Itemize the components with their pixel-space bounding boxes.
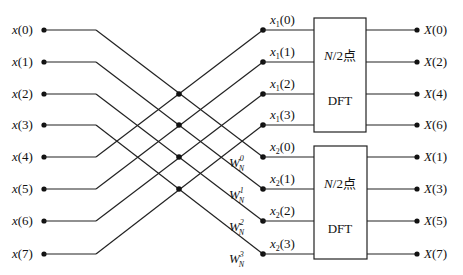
svg-text:x2(1): x2(1) bbox=[269, 171, 295, 188]
svg-text:X(7): X(7) bbox=[423, 246, 447, 261]
twiddle-subscript: N bbox=[238, 228, 245, 237]
output-node-X1: X(1) bbox=[367, 149, 447, 164]
svg-text:x(6): x(6) bbox=[11, 213, 33, 228]
output-dot bbox=[414, 122, 419, 127]
svg-text:x2(3): x2(3) bbox=[269, 236, 295, 253]
input-index: (6) bbox=[18, 213, 33, 228]
butterfly-node bbox=[176, 91, 182, 97]
svg-text:x1(1): x1(1) bbox=[269, 44, 295, 61]
input-node-6: x(6) bbox=[11, 213, 96, 228]
svg-text:X(5): X(5) bbox=[423, 213, 447, 228]
twiddle-w0: W0N bbox=[229, 154, 245, 173]
intermediate-index: (1) bbox=[280, 44, 295, 59]
butterfly-node bbox=[176, 122, 182, 128]
intermediate-node-x1-1: x1(1) bbox=[260, 44, 314, 65]
svg-text:x(4): x(4) bbox=[11, 149, 33, 164]
input-index: (2) bbox=[18, 86, 33, 101]
intermediate-index: (2) bbox=[280, 203, 295, 218]
dft-size-rest: /2点 bbox=[333, 176, 356, 191]
output-node-X2: X(2) bbox=[366, 54, 447, 69]
twiddle-superscript: 0 bbox=[240, 154, 244, 163]
input-node-2: x(2) bbox=[11, 86, 96, 101]
output-index: (2) bbox=[432, 54, 447, 69]
input-index: (7) bbox=[18, 246, 33, 261]
twiddle-w1: W1N bbox=[229, 186, 245, 205]
dft-size-label: N/2点 bbox=[323, 48, 356, 63]
butterfly-node bbox=[176, 186, 182, 192]
twiddle-subscript: N bbox=[238, 260, 245, 269]
twiddle-subscript: N bbox=[238, 164, 245, 173]
output-node-X0: X(0) bbox=[366, 22, 447, 37]
twiddle-superscript: 2 bbox=[240, 218, 244, 227]
svg-text:x(2): x(2) bbox=[11, 86, 33, 101]
twiddle-superscript: 1 bbox=[240, 186, 244, 195]
dft-box bbox=[314, 146, 367, 259]
svg-text:X(6): X(6) bbox=[423, 117, 447, 132]
butterfly-0 bbox=[96, 30, 263, 157]
dft-size-label: N/2点 bbox=[323, 176, 356, 191]
output-dot bbox=[414, 251, 419, 256]
svg-text:x2(0): x2(0) bbox=[269, 139, 295, 156]
intermediate-node-x1-3: x1(3) bbox=[260, 107, 314, 128]
input-index: (0) bbox=[18, 22, 33, 37]
svg-text:X(1): X(1) bbox=[423, 149, 447, 164]
svg-text:x(0): x(0) bbox=[11, 22, 33, 37]
output-index: (1) bbox=[432, 149, 447, 164]
svg-text:x(5): x(5) bbox=[11, 181, 33, 196]
output-dot bbox=[414, 59, 419, 64]
intermediate-index: (0) bbox=[280, 12, 295, 27]
input-index: (4) bbox=[18, 149, 33, 164]
output-node-X5: X(5) bbox=[367, 213, 447, 228]
intermediate-node-x2-1: x2(1) bbox=[260, 171, 314, 192]
intermediate-node-x2-2: x2(2) bbox=[260, 203, 314, 224]
output-node-X6: X(6) bbox=[366, 117, 447, 132]
output-index: (6) bbox=[432, 117, 447, 132]
output-index: (3) bbox=[432, 181, 447, 196]
dft-block-bottom: N/2点 DFT bbox=[314, 146, 367, 259]
svg-text:X(0): X(0) bbox=[423, 22, 447, 37]
svg-text:x1(0): x1(0) bbox=[269, 12, 295, 29]
output-dot bbox=[414, 218, 419, 223]
input-node-4: x(4) bbox=[11, 149, 96, 164]
intermediate-node-x2-0: x2(0) bbox=[260, 139, 314, 160]
intermediate-node-x1-2: x1(2) bbox=[260, 76, 314, 97]
input-node-7: x(7) bbox=[11, 246, 96, 261]
input-node-1: x(1) bbox=[11, 54, 96, 69]
dft-block-top: N/2点 DFT bbox=[314, 18, 366, 132]
dft-size-rest: /2点 bbox=[333, 48, 356, 63]
twiddle-w3: W3N bbox=[229, 250, 245, 269]
svg-text:x1(2): x1(2) bbox=[269, 76, 295, 93]
intermediate-index: (3) bbox=[280, 236, 295, 251]
output-index: (0) bbox=[432, 22, 447, 37]
svg-text:x2(2): x2(2) bbox=[269, 203, 295, 220]
intermediate-node-x1-0: x1(0) bbox=[260, 12, 314, 33]
intermediate-node-x2-3: x2(3) bbox=[260, 236, 314, 257]
input-node-3: x(3) bbox=[11, 117, 96, 132]
output-index: (5) bbox=[432, 213, 447, 228]
svg-text:x1(3): x1(3) bbox=[269, 107, 295, 124]
output-dot bbox=[414, 154, 419, 159]
intermediate-index: (1) bbox=[280, 171, 295, 186]
input-node-0: x(0) bbox=[11, 22, 96, 37]
svg-text:x(7): x(7) bbox=[11, 246, 33, 261]
output-index: (7) bbox=[432, 246, 447, 261]
input-index: (3) bbox=[18, 117, 33, 132]
intermediate-column: x1(0) x1(1) x1(2) x1(3) x2(0) x2(1) bbox=[260, 12, 314, 257]
input-column: x(0) x(1) x(2) x(3) x(4) x(5) bbox=[11, 22, 96, 261]
output-column: X(0) X(2) X(4) X(6) X(1) X(3) bbox=[366, 22, 447, 261]
output-node-X3: X(3) bbox=[367, 181, 447, 196]
input-index: (5) bbox=[18, 181, 33, 196]
output-dot bbox=[414, 91, 419, 96]
intermediate-index: (2) bbox=[280, 76, 295, 91]
output-node-X7: X(7) bbox=[367, 246, 447, 261]
dft-type-label: DFT bbox=[328, 93, 353, 108]
output-node-X4: X(4) bbox=[366, 86, 447, 101]
output-dot bbox=[414, 27, 419, 32]
svg-text:x(1): x(1) bbox=[11, 54, 33, 69]
dft-type-label: DFT bbox=[328, 221, 353, 236]
svg-text:X(2): X(2) bbox=[423, 54, 447, 69]
svg-text:x(3): x(3) bbox=[11, 117, 33, 132]
svg-text:X(4): X(4) bbox=[423, 86, 447, 101]
dft-box bbox=[314, 18, 366, 132]
twiddle-superscript: 3 bbox=[239, 250, 244, 259]
